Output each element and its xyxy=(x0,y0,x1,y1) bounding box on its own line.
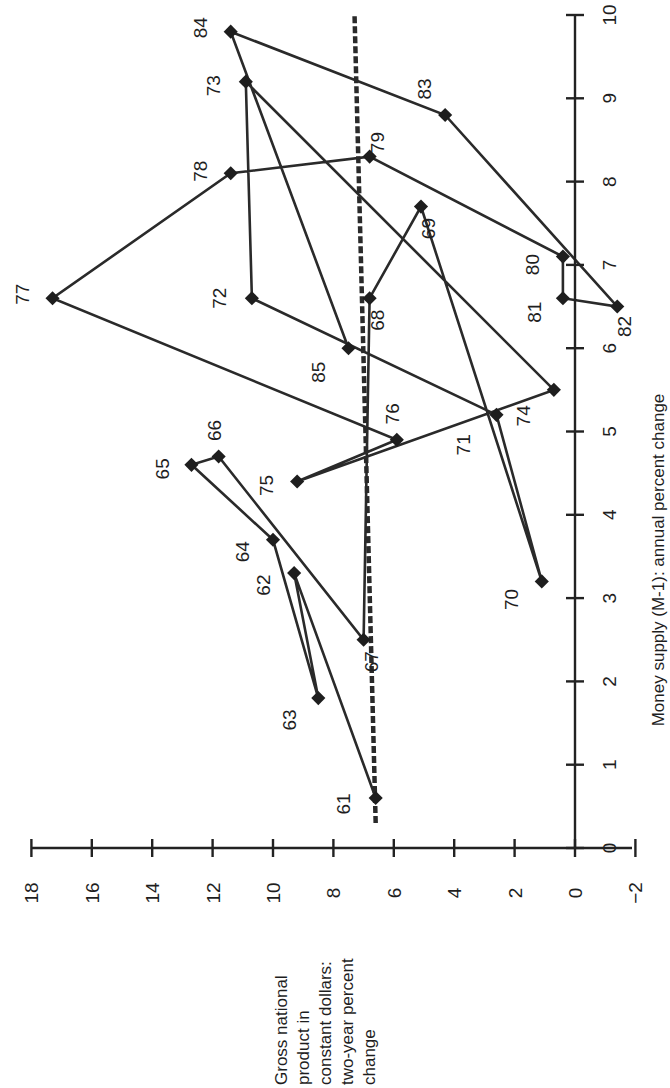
gnp-axis: −2024681012141618 xyxy=(21,839,646,904)
gnp-tick-label: 6 xyxy=(384,888,405,899)
point-label: 83 xyxy=(414,78,435,99)
point-label: 80 xyxy=(522,254,543,275)
data-point-marker xyxy=(556,291,570,305)
gnp-axis-title-line: Gross national xyxy=(272,975,291,1085)
m1-tick-label: 9 xyxy=(599,93,620,104)
gnp-axis-title: Gross nationalproduct inconstant dollars… xyxy=(272,958,379,1085)
m1-tick-label: 8 xyxy=(599,176,620,187)
point-label: 64 xyxy=(232,541,253,563)
connected-scatter-chart: 6162636465666768697071727374757677787980… xyxy=(0,0,670,1088)
m1-tick-label: 7 xyxy=(599,260,620,271)
point-label: 75 xyxy=(256,475,277,496)
gnp-tick-label: 10 xyxy=(263,882,284,903)
point-label: 66 xyxy=(204,420,225,441)
m1-axis: 012345678910 xyxy=(566,4,620,853)
point-label: 65 xyxy=(152,458,173,479)
gnp-axis-title-line: constant dollars: xyxy=(316,961,335,1085)
gnp-tick-label: 18 xyxy=(21,882,42,903)
m1-tick-label: 2 xyxy=(599,676,620,687)
gnp-tick-label: −2 xyxy=(625,882,646,904)
data-point-marker xyxy=(287,566,301,580)
m1-tick-label: 10 xyxy=(599,4,620,25)
gnp-tick-label: 16 xyxy=(82,882,103,903)
point-label: 62 xyxy=(253,575,274,596)
point-label: 70 xyxy=(501,589,522,610)
m1-tick-label: 6 xyxy=(599,343,620,354)
point-label: 85 xyxy=(308,362,329,383)
point-label: 76 xyxy=(382,403,403,424)
gnp-tick-label: 4 xyxy=(444,887,465,898)
data-point-marker xyxy=(311,691,325,705)
point-label: 71 xyxy=(453,434,474,455)
m1-tick-label: 5 xyxy=(599,426,620,437)
point-label: 72 xyxy=(209,288,230,309)
point-label: 84 xyxy=(190,17,211,39)
gnp-axis-title-line: product in xyxy=(294,1010,313,1085)
point-label: 78 xyxy=(190,161,211,182)
point-label: 74 xyxy=(513,405,534,427)
data-point-marker xyxy=(245,291,259,305)
data-point-marker xyxy=(414,200,428,214)
gnp-tick-label: 2 xyxy=(505,888,526,899)
gnp-tick-label: 12 xyxy=(203,882,224,903)
point-label: 61 xyxy=(333,793,354,814)
point-label: 69 xyxy=(418,218,439,239)
point-label: 77 xyxy=(12,284,33,305)
point-label: 63 xyxy=(279,709,300,730)
data-point-marker xyxy=(224,25,238,39)
point-label: 67 xyxy=(361,651,382,672)
m1-tick-label: 0 xyxy=(599,843,620,854)
gnp-tick-label: 14 xyxy=(142,882,163,904)
gnp-tick-label: 0 xyxy=(565,888,586,899)
point-label: 79 xyxy=(367,132,388,153)
point-label: 68 xyxy=(367,310,388,331)
data-point-marker xyxy=(363,291,377,305)
data-point-marker xyxy=(369,791,383,805)
data-point-marker xyxy=(535,574,549,588)
m1-tick-label: 1 xyxy=(599,759,620,770)
m1-tick-label: 4 xyxy=(599,509,620,520)
point-label: 73 xyxy=(203,75,224,96)
point-label: 82 xyxy=(614,316,635,337)
gnp-axis-title-line: two-year percent xyxy=(338,958,357,1085)
gnp-tick-label: 8 xyxy=(323,888,344,899)
m1-axis-title: Money supply (M-1): annual percent chang… xyxy=(649,394,668,727)
point-labels: 6162636465666768697071727374757677787980… xyxy=(12,17,636,815)
gnp-axis-title-line: change xyxy=(360,1029,379,1085)
point-label: 81 xyxy=(524,302,545,323)
m1-tick-label: 3 xyxy=(599,593,620,604)
data-point-marker xyxy=(290,474,304,488)
